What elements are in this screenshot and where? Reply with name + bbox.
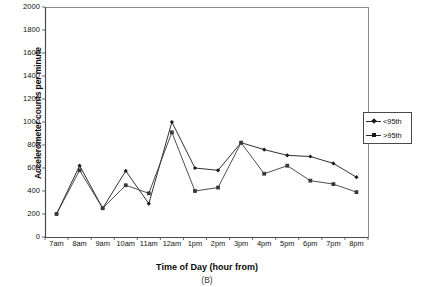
x-axis-title: Time of Day (hour from) [45, 262, 369, 272]
x-tick-label: 8pm [341, 239, 371, 248]
data-point-marker-square [308, 179, 312, 183]
series-line-0 [57, 122, 357, 214]
data-point-marker-square [124, 183, 128, 187]
data-point-marker-square [193, 189, 197, 193]
data-point-marker-square [147, 191, 151, 195]
data-point-marker-diamond [78, 164, 82, 168]
data-point-marker-diamond [285, 153, 289, 157]
legend-marker-square-icon [366, 131, 381, 140]
data-point-marker-diamond [262, 148, 266, 152]
data-point-marker-square [285, 164, 289, 168]
legend-label-1: >95th [383, 131, 402, 140]
data-point-marker-square [170, 130, 174, 134]
plot-frame [46, 8, 369, 238]
data-point-marker-square [216, 186, 220, 190]
data-point-marker-square [262, 172, 266, 176]
data-point-marker-square [239, 141, 243, 145]
data-point-marker-diamond [331, 161, 335, 165]
data-point-marker-diamond [308, 154, 312, 158]
legend-item-1: >95th [366, 129, 402, 142]
data-point-marker-square [55, 212, 59, 216]
data-point-marker-square [78, 168, 82, 172]
series-line-1 [57, 132, 357, 214]
data-point-marker-diamond [193, 166, 197, 170]
data-point-marker-square [331, 182, 335, 186]
data-point-marker-diamond [354, 175, 358, 179]
figure-caption: (B) [45, 275, 369, 285]
legend-label-0: <95th [383, 117, 402, 126]
chart-figure: 0200400600800100012001400160018002000 Ac… [0, 0, 422, 287]
legend-marker-diamond-icon [366, 117, 381, 126]
data-point-marker-square [101, 206, 105, 210]
data-point-marker-square [355, 190, 359, 194]
data-point-marker-diamond [170, 120, 174, 124]
legend: <95th >95th [363, 112, 412, 144]
legend-item-0: <95th [366, 115, 402, 128]
